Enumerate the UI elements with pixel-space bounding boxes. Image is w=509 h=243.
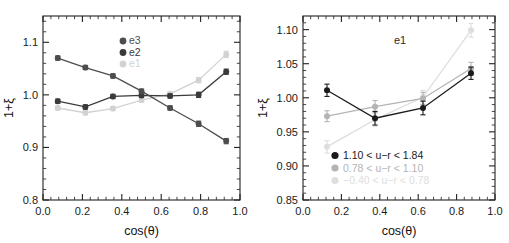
legend: 1.10 < u−r < 1.840.78 < u−r < 1.10−0.40 … xyxy=(331,149,429,186)
x-tick-label: 0.2 xyxy=(75,205,90,217)
panel-left: 0.00.20.40.60.81.00.80.91.01.1cos(θ)1+ξe… xyxy=(0,0,254,243)
right-plot-svg: 0.00.20.40.60.81.00.850.900.951.001.051.… xyxy=(255,0,509,243)
data-point xyxy=(324,144,330,150)
data-point xyxy=(420,95,426,101)
legend-marker-e2 xyxy=(120,49,127,56)
y-tick-label: 1.1 xyxy=(23,36,38,48)
x-tick-label: 0.8 xyxy=(193,205,208,217)
data-series-group xyxy=(55,51,229,144)
series-line xyxy=(58,54,226,112)
y-tick-label: 0.90 xyxy=(277,160,298,172)
y-axis-title: 1+ξ xyxy=(2,98,16,118)
x-tick-label: 0.2 xyxy=(334,205,349,217)
legend-label-e1: e1 xyxy=(129,57,141,69)
legend-marker-e3 xyxy=(120,38,127,45)
data-point xyxy=(167,93,173,99)
panel-right: 0.00.20.40.60.81.00.850.900.951.001.051.… xyxy=(255,0,509,243)
x-tick-label: 0.6 xyxy=(411,205,426,217)
x-tick-label: 0.4 xyxy=(372,205,387,217)
data-point xyxy=(55,98,61,104)
data-point xyxy=(167,105,173,111)
y-tick-label: 1.0 xyxy=(23,89,38,101)
data-point xyxy=(372,115,378,121)
plot-axes: 0.00.20.40.60.81.00.80.91.01.1cos(θ)1+ξ xyxy=(2,16,248,238)
data-point xyxy=(196,121,202,127)
x-tick-label: 0.4 xyxy=(114,205,129,217)
data-point xyxy=(82,110,88,116)
panel-annotation: e1 xyxy=(394,34,406,46)
y-tick-label: 0.85 xyxy=(277,194,298,206)
data-point xyxy=(468,70,474,76)
data-point xyxy=(223,138,229,144)
data-point xyxy=(82,65,88,71)
data-point xyxy=(55,55,61,61)
data-point xyxy=(468,27,474,33)
legend-label-red-bin: 1.10 < u−r < 1.84 xyxy=(343,149,423,161)
legend-label-e3: e3 xyxy=(129,34,141,46)
data-point xyxy=(420,105,426,111)
data-point xyxy=(223,51,229,57)
data-point xyxy=(196,77,202,83)
legend-marker-e1 xyxy=(120,61,127,68)
data-point xyxy=(223,69,229,75)
y-axis-title: 1+ξ xyxy=(256,98,270,118)
data-point xyxy=(110,106,116,112)
data-point xyxy=(324,87,330,93)
legend-label-mid-bin: 0.78 < u−r < 1.10 xyxy=(343,162,423,174)
data-point xyxy=(55,105,61,111)
data-point xyxy=(82,104,88,110)
legend-label-e2: e2 xyxy=(129,46,141,58)
y-tick-label: 1.00 xyxy=(277,92,298,104)
legend-marker-blue-bin xyxy=(331,177,338,184)
series-red-bin xyxy=(324,67,474,125)
y-tick-label: 0.8 xyxy=(23,194,38,206)
x-axis-title: cos(θ) xyxy=(124,224,159,238)
data-point xyxy=(110,73,116,79)
y-tick-label: 0.95 xyxy=(277,126,298,138)
plot-frame xyxy=(43,16,240,200)
x-tick-label: 0.8 xyxy=(449,205,464,217)
legend-marker-mid-bin xyxy=(331,164,338,171)
x-tick-label: 0.0 xyxy=(35,205,50,217)
figure-container: 0.00.20.40.60.81.00.80.91.01.1cos(θ)1+ξe… xyxy=(0,0,509,243)
data-point xyxy=(110,93,116,99)
legend-marker-red-bin xyxy=(331,152,338,159)
legend-label-blue-bin: −0.40 < u−r < 0.78 xyxy=(343,174,430,186)
y-tick-label: 1.05 xyxy=(277,58,298,70)
x-tick-label: 0.6 xyxy=(154,205,169,217)
data-point xyxy=(196,92,202,98)
x-tick-label: 1.0 xyxy=(487,205,502,217)
x-axis-title: cos(θ) xyxy=(382,224,417,238)
y-tick-label: 0.9 xyxy=(23,141,38,153)
left-plot-svg: 0.00.20.40.60.81.00.80.91.01.1cos(θ)1+ξe… xyxy=(0,0,254,243)
x-tick-label: 0.0 xyxy=(295,205,310,217)
plot-axes: 0.00.20.40.60.81.00.850.900.951.001.051.… xyxy=(256,16,503,238)
data-point xyxy=(139,88,145,94)
y-tick-label: 1.10 xyxy=(277,24,298,36)
legend: e3e2e1 xyxy=(120,34,141,69)
x-tick-label: 1.0 xyxy=(232,205,247,217)
data-point xyxy=(372,104,378,110)
data-point xyxy=(324,113,330,119)
